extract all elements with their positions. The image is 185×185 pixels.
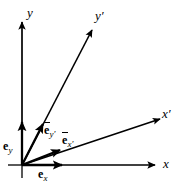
x-prime-axis-label: x′: [162, 107, 171, 120]
e-bar-y-prime-overbar-wrap: e: [44, 124, 49, 136]
e-bar-y-prime-label: ey′: [44, 124, 55, 139]
e-bar-y-prime-symbol: e: [44, 123, 49, 137]
x-axis-label-text: x: [163, 156, 169, 171]
y-axis-label: y: [27, 6, 33, 19]
x-prime-axis-label-prime: ′: [168, 106, 171, 121]
y-prime-axis-label-prime: ′: [101, 8, 104, 23]
diagram-canvas: [0, 0, 185, 185]
e-bar-y-prime-subscript: y′: [50, 129, 56, 139]
e-x-symbol: e: [38, 167, 43, 181]
e-bar-x-prime-label: ex′: [62, 134, 73, 149]
e-bar-x-prime-overbar-wrap: e: [62, 134, 67, 146]
e-y-symbol: e: [3, 139, 8, 153]
e-x-label: ex: [38, 168, 48, 183]
y-axis-label-text: y: [27, 5, 33, 20]
overbar-glyph: [44, 122, 50, 123]
e-x-subscript: x: [44, 173, 48, 183]
vector-basis-diagram: y x y′ x′ ey ex ey′ ex′: [0, 0, 185, 185]
x-axis-label: x: [163, 157, 169, 170]
e-y-label: ey: [3, 140, 13, 155]
e-y-subscript: y: [9, 145, 13, 155]
y-prime-axis-label: y′: [95, 9, 104, 22]
e-bar-x-prime-subscript: x′: [68, 139, 74, 149]
e-bar-x-prime-symbol: e: [62, 133, 67, 147]
overbar-glyph: [62, 132, 68, 133]
